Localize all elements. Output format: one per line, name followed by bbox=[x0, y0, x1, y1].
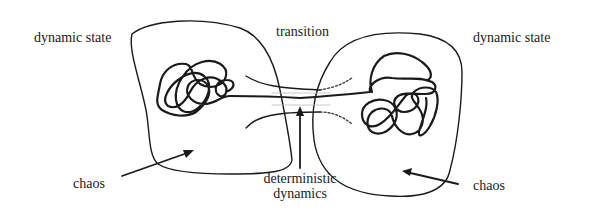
label-transition: transition bbox=[276, 24, 329, 39]
transition-flowline-upper-left bbox=[246, 76, 320, 90]
right-chaos-arrowhead bbox=[402, 168, 412, 176]
label-left-dynamic-state: dynamic state bbox=[34, 30, 111, 45]
transition-flowline-lower-left bbox=[246, 112, 320, 128]
label-deterministic-line2: dynamics bbox=[258, 186, 342, 201]
label-deterministic-line1: deterministic bbox=[258, 171, 342, 186]
label-left-chaos: chaos bbox=[73, 176, 105, 191]
label-right-chaos: chaos bbox=[473, 178, 505, 193]
right-chaotic-trajectory bbox=[300, 53, 438, 135]
label-deterministic-dynamics: deterministic dynamics bbox=[258, 171, 342, 201]
label-right-dynamic-state: dynamic state bbox=[473, 30, 550, 45]
left-chaotic-trajectory bbox=[157, 61, 300, 116]
left-chaos-arrow-shaft bbox=[122, 152, 190, 176]
diagram: dynamic state transition dynamic state c… bbox=[0, 0, 594, 216]
transition-dotted-upper-right bbox=[320, 78, 352, 90]
right-chaos-arrow-shaft bbox=[406, 172, 458, 184]
transition-dotted-lower-right bbox=[320, 112, 352, 124]
deterministic-arrowhead bbox=[296, 106, 304, 116]
left-chaos-arrowhead bbox=[183, 150, 194, 158]
